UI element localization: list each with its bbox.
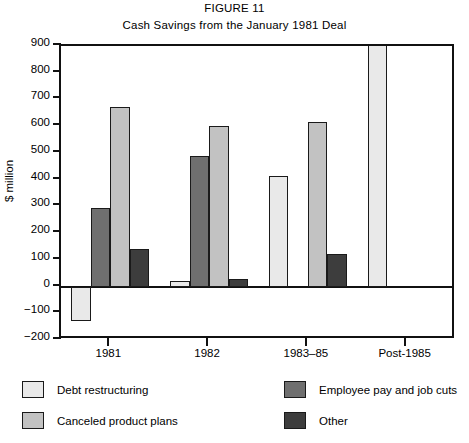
bar (110, 107, 130, 286)
bar (368, 44, 388, 287)
legend-item: Employee pay and job cuts (284, 381, 457, 398)
figure-title: Cash Savings from the January 1981 Deal (0, 19, 469, 31)
x-axis-tick-label: Post-1985 (378, 347, 430, 359)
y-axis-tick (53, 257, 61, 259)
legend-item: Canceled product plans (22, 412, 178, 429)
legend-label: Employee pay and job cuts (319, 384, 457, 396)
y-axis-tick (53, 177, 61, 179)
y-axis-tick (53, 203, 61, 205)
legend-item: Debt restructuring (22, 381, 148, 398)
legend-swatch (284, 412, 306, 429)
legend-label: Other (319, 415, 348, 427)
bar (190, 156, 210, 287)
y-axis-tick (53, 150, 61, 152)
plot-area (59, 44, 454, 338)
legend-label: Debt restructuring (57, 384, 148, 396)
x-axis-tick-label: 1982 (194, 347, 220, 359)
x-axis-tick-label: 1981 (96, 347, 122, 359)
legend-label: Canceled product plans (57, 415, 178, 427)
y-axis-tick (53, 310, 61, 312)
chart-legend: Debt restructuringCanceled product plans… (22, 381, 462, 439)
y-axis-tick (53, 96, 61, 98)
x-axis-tick (305, 338, 307, 346)
y-axis-tick-label: −100 (0, 303, 50, 315)
y-axis-tick (53, 284, 61, 286)
legend-swatch (22, 412, 44, 429)
y-axis-tick-label: 500 (0, 143, 50, 155)
x-axis-tick (404, 338, 406, 346)
bar (130, 249, 150, 286)
legend-item: Other (284, 412, 348, 429)
y-axis-tick (53, 43, 61, 45)
y-axis-tick (53, 230, 61, 232)
y-axis-tick (53, 123, 61, 125)
bar (209, 126, 229, 286)
bar (170, 281, 190, 286)
legend-swatch (22, 381, 44, 398)
y-axis-tick (53, 337, 61, 339)
x-axis-tick (206, 338, 208, 346)
y-axis-tick-label: 700 (0, 89, 50, 101)
y-axis-tick-label: 0 (0, 277, 50, 289)
y-axis-tick-label: 100 (0, 250, 50, 262)
bar (327, 254, 347, 286)
bar (308, 122, 328, 286)
y-axis-tick-label: 400 (0, 170, 50, 182)
bar (91, 208, 111, 287)
bar (269, 176, 289, 287)
bar (229, 279, 249, 287)
bars-layer (61, 46, 452, 336)
x-axis-tick-label: 1983–85 (283, 347, 328, 359)
figure-number: FIGURE 11 (0, 2, 469, 14)
y-axis-tick-label: −200 (0, 330, 50, 342)
bar (71, 287, 91, 322)
legend-swatch (284, 381, 306, 398)
y-axis-tick-label: 300 (0, 196, 50, 208)
y-axis-tick-label: 800 (0, 63, 50, 75)
y-axis-tick-label: 900 (0, 36, 50, 48)
y-axis-tick (53, 70, 61, 72)
y-axis-tick-label: 600 (0, 116, 50, 128)
x-axis-tick (107, 338, 109, 346)
y-axis-tick-label: 200 (0, 223, 50, 235)
figure-container: FIGURE 11 Cash Savings from the January … (0, 0, 469, 443)
